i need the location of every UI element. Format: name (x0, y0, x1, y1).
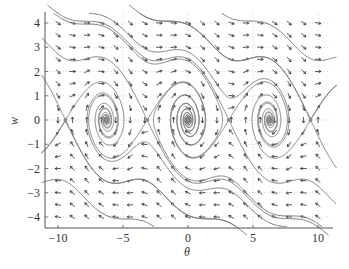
direction-arrow (70, 154, 74, 158)
direction-arrow (157, 215, 162, 219)
direction-arrow (85, 215, 89, 219)
direction-arrow (113, 191, 119, 194)
direction-arrow (257, 34, 263, 37)
direction-arrow (142, 167, 148, 170)
x-tick-label: 10 (312, 231, 324, 245)
direction-arrow (70, 203, 75, 207)
direction-arrow (172, 154, 175, 159)
direction-arrow (244, 215, 248, 219)
direction-arrow (214, 216, 220, 219)
direction-arrow (302, 81, 306, 85)
direction-arrow (228, 82, 234, 85)
direction-arrow (245, 105, 248, 111)
direction-arrow (301, 203, 307, 206)
direction-arrow (114, 81, 118, 86)
direction-arrow (56, 93, 59, 98)
trajectory-curve (140, 13, 337, 118)
y-tick-label: 1 (34, 89, 40, 103)
separatrix-unstable (147, 82, 205, 145)
direction-arrow (244, 178, 248, 183)
equilibrium-point (186, 118, 190, 122)
equilibrium-point (104, 118, 108, 122)
equilibrium-point (63, 118, 67, 122)
direction-arrow (128, 57, 132, 62)
direction-arrow (215, 69, 219, 74)
direction-arrow (229, 203, 234, 206)
trajectory-curve (54, 13, 223, 157)
direction-arrow (70, 179, 75, 183)
x-tick-label: 0 (185, 231, 191, 245)
direction-arrow (215, 129, 218, 135)
direction-arrow (216, 117, 219, 123)
direction-arrow (229, 22, 235, 25)
direction-arrow (85, 178, 89, 183)
direction-arrow (214, 191, 220, 194)
direction-arrow (98, 34, 104, 37)
direction-arrow (228, 95, 234, 98)
direction-arrow (200, 21, 204, 25)
direction-arrow (301, 21, 306, 24)
direction-arrow (243, 46, 249, 49)
direction-arrow (98, 58, 104, 61)
direction-arrow (301, 69, 305, 73)
direction-arrow (56, 69, 60, 73)
direction-arrow (258, 179, 262, 183)
equilibrium-point (309, 118, 313, 122)
direction-arrow (56, 81, 60, 86)
direction-arrow (229, 215, 234, 218)
direction-arrow (55, 167, 61, 170)
y-tick-label: 3 (34, 40, 40, 54)
direction-arrow (99, 191, 104, 194)
direction-arrow (229, 167, 234, 170)
direction-arrow (200, 45, 204, 49)
direction-arrow (142, 203, 148, 206)
direction-arrow (85, 191, 89, 195)
direction-arrow (71, 142, 74, 147)
direction-arrow (258, 154, 262, 159)
direction-arrow (156, 82, 161, 85)
separatrix-unstable (66, 82, 124, 145)
direction-arrow (272, 33, 277, 36)
direction-arrow (243, 34, 249, 37)
direction-arrow (272, 46, 277, 49)
direction-arrow (316, 154, 320, 159)
direction-arrow (85, 203, 89, 207)
direction-arrow (316, 166, 320, 170)
direction-arrow (98, 70, 104, 73)
direction-arrow (128, 21, 132, 25)
equilibrium-point (227, 118, 231, 122)
direction-arrow (229, 155, 234, 158)
direction-arrow (142, 155, 148, 158)
direction-arrow (142, 82, 147, 85)
separatrix-unstable (252, 95, 310, 158)
direction-arrow (171, 215, 175, 219)
direction-arrow (142, 191, 148, 194)
direction-arrow (113, 179, 119, 182)
direction-arrow (199, 204, 205, 207)
direction-arrow (301, 155, 307, 158)
direction-arrow (287, 33, 291, 37)
direction-arrow (316, 179, 321, 183)
direction-arrow (243, 22, 249, 25)
direction-arrow (84, 34, 90, 37)
direction-arrow (128, 69, 132, 74)
direction-arrow (287, 57, 291, 62)
direction-arrow (127, 216, 133, 219)
y-tick-label: 0 (34, 113, 40, 127)
direction-arrow (158, 105, 161, 111)
direction-arrow (85, 93, 89, 98)
separatrix-unstable (170, 95, 228, 158)
direction-arrow (142, 215, 148, 218)
separatrix-stable (66, 120, 247, 235)
direction-arrow (129, 129, 132, 135)
direction-arrow (142, 34, 147, 37)
direction-arrow (55, 191, 61, 194)
y-tick-label: 4 (34, 16, 40, 30)
direction-arrow (70, 34, 76, 37)
direction-arrow (244, 129, 247, 135)
direction-arrow (70, 191, 75, 195)
direction-arrow (55, 143, 60, 146)
direction-arrow (157, 203, 161, 207)
direction-arrow (302, 93, 305, 98)
direction-arrow (85, 82, 90, 86)
